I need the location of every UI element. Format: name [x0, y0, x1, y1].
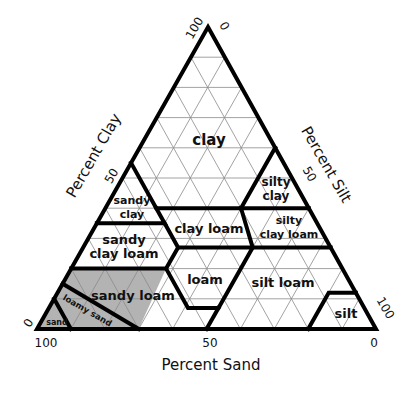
silt-loam-boundary	[207, 308, 219, 329]
sand-tick-50: 50	[202, 336, 217, 350]
sand-tick-0: 0	[370, 336, 378, 350]
label-sand: sand	[46, 318, 68, 327]
label-sandy-loam: sandy loam	[91, 288, 175, 303]
label-sandy-clay-2: clay	[120, 208, 145, 221]
label-silty-clay-loam-1: silty	[276, 214, 303, 227]
silt-tick-50: 50	[300, 164, 320, 184]
clay-tick-0: 0	[21, 316, 37, 330]
sand-tick-100: 100	[35, 336, 58, 350]
label-sandy-clay-1: sandy	[114, 194, 151, 207]
soil-texture-triangle: clay sandy clay silty clay clay loam sil…	[0, 0, 408, 394]
silt-axis-title: Percent Silt	[297, 123, 355, 206]
silt-tick-0: 0	[216, 19, 232, 33]
label-loam: loam	[187, 272, 223, 287]
label-silt-loam: silt loam	[251, 275, 314, 290]
label-clay: clay	[192, 131, 226, 149]
label-sandy-clay-loam-1: sandy	[102, 232, 146, 247]
label-sandy-clay-loam-2: clay loam	[89, 246, 158, 261]
silt-tick-100: 100	[374, 295, 398, 322]
label-silty-clay-2: clay	[263, 189, 290, 203]
label-clay-loam: clay loam	[174, 221, 243, 236]
label-silt: silt	[335, 306, 358, 321]
label-silty-clay-loam-2: clay loam	[260, 228, 319, 241]
sand-axis-title: Percent Sand	[162, 356, 261, 374]
label-silty-clay-1: silty	[262, 175, 291, 189]
